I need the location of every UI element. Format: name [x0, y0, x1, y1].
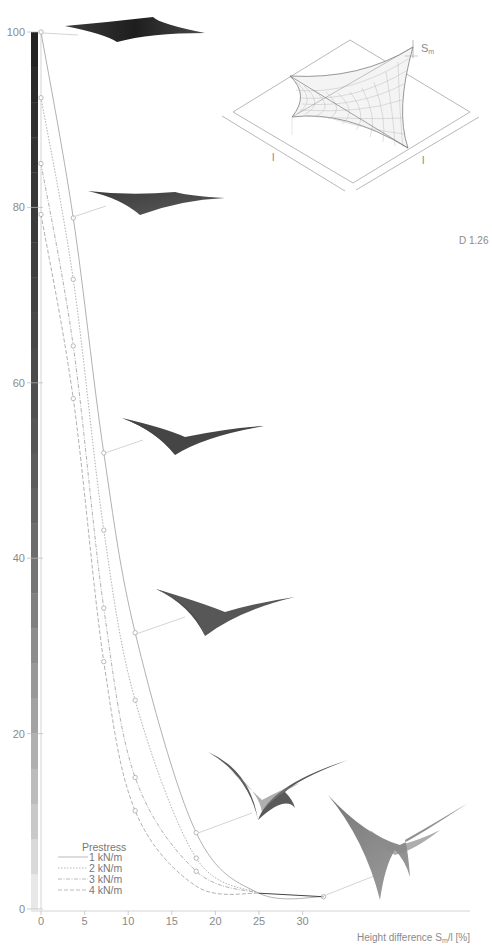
legend: Prestress 1 kN/m 2 kN/m 3 kN/m 4 kN/m: [58, 841, 126, 896]
data-marker: [102, 606, 106, 610]
membrane-shape-79: [88, 191, 225, 215]
scale-segment: [31, 839, 38, 874]
converged-tail: [259, 893, 324, 897]
scale-segment: [31, 313, 38, 348]
scale-segment: [31, 418, 38, 453]
scale-segment: [31, 242, 38, 277]
legend-item-4: 4 kN/m: [89, 884, 123, 896]
data-marker: [71, 277, 75, 281]
leader-lines: [43, 33, 374, 897]
scale-segment: [31, 628, 38, 663]
y-tick-label: 0: [19, 903, 25, 915]
curve-1: [41, 32, 324, 899]
data-marker: [71, 344, 75, 348]
data-marker: [39, 161, 43, 165]
scale-segment: [31, 348, 38, 383]
data-marker: [39, 30, 43, 34]
inset-dimension-left: [222, 116, 345, 191]
chart: 020406080100 051015202530 Height differe…: [0, 0, 492, 945]
color-scale-bar: [31, 32, 38, 909]
scale-segment: [31, 593, 38, 628]
x-axis-title: Height difference Sm/l [%]: [357, 932, 470, 944]
membrane-shape-100: [65, 17, 205, 42]
scale-segment: [31, 32, 38, 67]
data-marker: [133, 698, 137, 702]
x-tick-label: 0: [38, 915, 44, 927]
scale-segment: [31, 663, 38, 698]
x-tick-label: 5: [82, 915, 88, 927]
data-marker: [102, 659, 106, 663]
scale-segment: [31, 172, 38, 207]
scale-segment: [31, 804, 38, 839]
inset-label-sag: Sm: [421, 42, 434, 55]
scale-segment: [31, 383, 38, 418]
scale-segment: [31, 102, 38, 137]
scale-segment: [31, 207, 38, 242]
scale-segment: [31, 769, 38, 804]
figure-label: D 1.26: [459, 235, 488, 246]
data-marker: [194, 856, 198, 860]
data-marker: [194, 869, 198, 873]
scale-segment: [31, 699, 38, 734]
scale-segment: [31, 558, 38, 593]
curves: [39, 30, 326, 899]
inset-label-left: l: [272, 151, 274, 163]
data-marker: [194, 831, 198, 835]
data-marker: [71, 396, 75, 400]
y-tick-label: 100: [7, 26, 25, 38]
data-marker: [102, 528, 106, 532]
data-marker: [133, 775, 137, 779]
scale-segment: [31, 453, 38, 488]
scale-segment: [31, 488, 38, 523]
x-tick-label: 25: [253, 915, 265, 927]
x-tick-label: 10: [122, 915, 134, 927]
data-marker: [133, 809, 137, 813]
y-tick-label: 20: [13, 728, 25, 740]
x-axis-ticks: 051015202530: [38, 911, 309, 927]
y-tick-label: 80: [13, 201, 25, 213]
data-marker: [39, 212, 43, 216]
scale-segment: [31, 523, 38, 558]
inset-label-right: l: [422, 154, 424, 166]
data-marker: [133, 631, 137, 635]
x-tick-label: 20: [209, 915, 221, 927]
membrane-shape-52: [122, 418, 264, 455]
y-tick-label: 40: [13, 552, 25, 564]
data-marker: [39, 96, 43, 100]
inset-diagram: [222, 40, 479, 191]
scale-segment: [31, 734, 38, 769]
x-tick-label: 30: [296, 915, 308, 927]
scale-segment: [31, 874, 38, 909]
curve-4: [41, 214, 259, 894]
membrane-shape-1: [328, 795, 468, 900]
membrane-shape-9: [208, 752, 348, 820]
x-tick-label: 15: [166, 915, 178, 927]
scale-segment: [31, 278, 38, 313]
y-tick-label: 60: [13, 377, 25, 389]
scale-segment: [31, 67, 38, 102]
scale-segment: [31, 137, 38, 172]
membrane-shape-31: [156, 589, 295, 636]
curve-3: [41, 164, 259, 894]
